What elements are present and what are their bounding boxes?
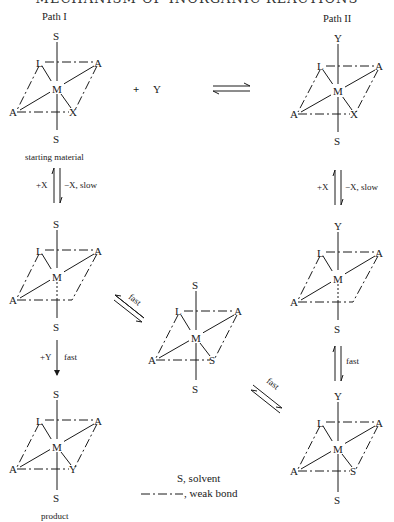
path-1-title: Path I <box>42 11 67 22</box>
atom-ur: A <box>94 57 102 69</box>
atom-ur: A <box>94 245 102 257</box>
label-fast: fast <box>265 376 282 392</box>
legend-weak-bond: , weak bond <box>184 487 238 499</box>
label-plus-y: +Y <box>40 352 52 362</box>
atom-ul: L <box>36 57 43 69</box>
label-fast: fast <box>64 352 77 362</box>
atom-metal: M <box>333 443 343 455</box>
atom-lr: X <box>69 106 77 118</box>
reaction-diagram: Path I Path II S L A M A X S starting ma… <box>0 0 394 522</box>
caption-product: product <box>41 511 69 521</box>
label-minus-x-slow: −X, slow <box>64 180 98 190</box>
structure-product: S L A M A Y S product <box>9 388 102 521</box>
atom-top: Y <box>334 390 342 402</box>
atom-bottom: S <box>53 133 59 145</box>
atom-ul: L <box>36 415 43 427</box>
atom-ul: L <box>175 305 182 317</box>
atom-ll: A <box>290 465 298 477</box>
structure-intermediate-left: S L A M A S <box>9 218 102 333</box>
atom-metal: M <box>333 273 343 285</box>
atom-ur: A <box>375 417 383 429</box>
atom-lr: X <box>350 108 358 120</box>
atom-ur: A <box>375 60 383 72</box>
arrow-diagonal-lower: fast <box>251 376 282 413</box>
atom-top: S <box>53 218 59 230</box>
atom-metal: M <box>191 332 201 344</box>
atom-lr: Y <box>69 463 77 475</box>
atom-ul: L <box>36 245 43 257</box>
atom-bottom: S <box>334 494 340 506</box>
atom-bottom: S <box>334 323 340 335</box>
atom-top: S <box>192 279 198 291</box>
equilibrium-arrow <box>213 83 250 94</box>
atom-ll: A <box>290 296 298 308</box>
atom-ll: A <box>148 354 156 366</box>
atom-metal: M <box>52 441 62 453</box>
atom-ll: A <box>290 108 298 120</box>
atom-bottom: S <box>53 321 59 333</box>
atom-bottom: S <box>334 135 340 147</box>
atom-ur: A <box>234 305 242 317</box>
atom-metal: M <box>52 271 62 283</box>
atom-ur: A <box>375 247 383 259</box>
arrow-left-step-2: +Y fast <box>40 340 77 375</box>
atom-ur: A <box>94 415 102 427</box>
plus-sign: + <box>133 83 139 95</box>
atom-ul: L <box>317 247 324 259</box>
atom-top: S <box>53 30 59 42</box>
atom-top: S <box>53 388 59 400</box>
atom-ll: A <box>9 294 17 306</box>
structure-starting-material: S L A M A X S starting material <box>9 30 102 162</box>
path-2-title: Path II <box>323 13 352 24</box>
arrow-right-step-2: fast <box>333 346 359 381</box>
label-plus-x: +X <box>317 182 329 192</box>
structure-path-2-bottom: Y L A M A S S <box>290 390 383 506</box>
atom-metal: M <box>52 83 62 95</box>
label-fast: fast <box>346 356 359 366</box>
atom-ul: L <box>317 417 324 429</box>
atom-top: Y <box>334 32 342 44</box>
structure-path-2-top: Y L A M A X S <box>290 32 383 147</box>
atom-top: Y <box>334 220 342 232</box>
structure-intermediate-right: Y L A M A S <box>290 220 383 335</box>
label-fast: fast <box>127 292 144 308</box>
reagent-y: Y <box>153 83 161 95</box>
atom-bottom: S <box>53 492 59 504</box>
arrow-right-step-1: +X −X, slow <box>317 170 379 205</box>
atom-ul: L <box>317 60 324 72</box>
atom-lr: S <box>350 465 356 477</box>
arrow-left-step-1: +X −X, slow <box>36 168 98 203</box>
caption-starting-material: starting material <box>25 152 84 162</box>
atom-lr: S <box>209 354 215 366</box>
legend: S, solvent , weak bond <box>141 472 238 499</box>
legend-solvent: S, solvent <box>177 472 220 484</box>
label-plus-x: +X <box>36 180 48 190</box>
atom-ll: A <box>9 463 17 475</box>
atom-ll: A <box>9 106 17 118</box>
label-minus-x-slow: −X, slow <box>345 182 379 192</box>
structure-central: S L A M A S S <box>148 279 242 395</box>
atom-bottom: S <box>192 383 198 395</box>
arrow-diagonal-upper: fast <box>114 292 144 322</box>
atom-metal: M <box>333 85 343 97</box>
